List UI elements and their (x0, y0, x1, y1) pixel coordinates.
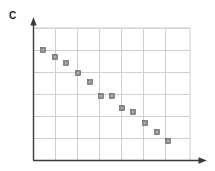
marker-center-4 (89, 81, 90, 82)
data-point-marker (110, 94, 115, 99)
data-point-marker (53, 55, 58, 60)
y-axis-arrowhead-icon (30, 17, 36, 26)
marker-center-8 (132, 111, 133, 112)
scatter-plot (0, 0, 215, 171)
data-point-marker (76, 71, 81, 76)
marker-center-10 (156, 131, 157, 132)
marker-center-2 (65, 62, 66, 63)
data-point-marker (64, 61, 69, 66)
marker-center-9 (144, 122, 145, 123)
data-point-marker (155, 130, 160, 135)
data-point-marker (166, 139, 171, 144)
data-point-marker (120, 106, 125, 111)
marker-center-7 (121, 107, 122, 108)
data-point-marker (99, 94, 104, 99)
data-point-marker (88, 80, 93, 85)
data-point-marker (41, 48, 46, 53)
marker-center-1 (54, 56, 55, 57)
marker-center-0 (42, 49, 43, 50)
data-point-marker (131, 110, 136, 115)
marker-center-3 (77, 72, 78, 73)
data-point-marker (143, 121, 148, 126)
x-axis-arrowhead-icon (199, 157, 208, 163)
figure-panel-c: C (0, 0, 215, 171)
marker-center-6 (111, 95, 112, 96)
marker-center-11 (167, 140, 168, 141)
marker-center-5 (100, 95, 101, 96)
